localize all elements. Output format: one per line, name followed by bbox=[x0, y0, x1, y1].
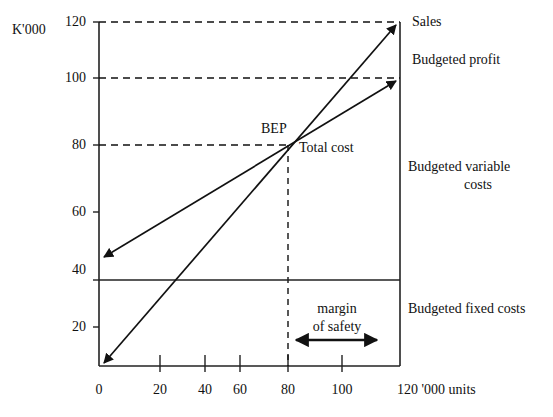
x-tick-label-60: 60 bbox=[223, 382, 257, 398]
x-tick-label-100: 100 bbox=[325, 382, 359, 398]
legend-label-sales: Sales bbox=[412, 14, 442, 30]
x-axis-caption: 120 '000 units bbox=[397, 382, 476, 398]
y-tick-label-60: 60 bbox=[52, 204, 86, 220]
legend-label-budgeted-variable-costs-line1: Budgeted variable bbox=[408, 159, 510, 175]
y-tick-label-20: 20 bbox=[52, 319, 86, 335]
margin-of-safety-label-line2: of safety bbox=[289, 319, 385, 335]
y-tick-label-100: 100 bbox=[52, 70, 86, 86]
y-tick-label-120: 120 bbox=[52, 14, 86, 30]
total-cost-annotation: Total cost bbox=[299, 140, 354, 156]
x-tick-label-0: 0 bbox=[82, 382, 116, 398]
total-cost-line bbox=[104, 81, 396, 257]
legend-label-budgeted-profit: Budgeted profit bbox=[412, 52, 500, 68]
legend-label-budgeted-fixed-costs: Budgeted fixed costs bbox=[408, 301, 525, 317]
bep-annotation: BEP bbox=[261, 121, 287, 137]
margin-of-safety-label-line1: margin bbox=[289, 301, 385, 317]
x-tick-label-20: 20 bbox=[143, 382, 177, 398]
x-tick-label-40: 40 bbox=[188, 382, 222, 398]
y-axis-unit-label: K'000 bbox=[12, 22, 46, 38]
x-tick-label-80: 80 bbox=[271, 382, 305, 398]
y-tick-label-80: 80 bbox=[52, 137, 86, 153]
legend-label-budgeted-variable-costs-line2: costs bbox=[408, 177, 548, 193]
break-even-chart: K'000 120 100 80 60 40 20 0 20 40 60 80 … bbox=[0, 0, 553, 417]
y-tick-label-40: 40 bbox=[52, 262, 86, 278]
